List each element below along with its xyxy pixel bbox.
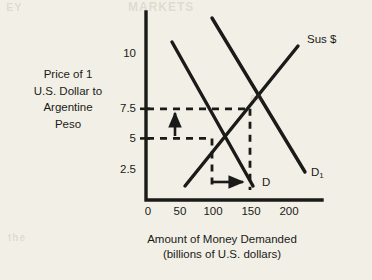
y-axis-caption-line-2: U.S. Dollar to — [8, 83, 128, 100]
y-axis-caption: Price of 1 U.S. Dollar to Argentine Peso — [8, 66, 128, 132]
x-tick-label-200: 200 — [274, 205, 304, 217]
dashed-guides — [147, 109, 250, 190]
curve-label-demand-shifted-subscript: 1 — [319, 171, 323, 180]
x-tick-label-100: 100 — [198, 205, 228, 217]
plot-axes — [146, 12, 322, 200]
x-axis-caption: Amount of Money Demanded (billions of U.… — [116, 232, 328, 262]
x-axis-caption-line-1: Amount of Money Demanded — [116, 232, 328, 247]
curve-label-supply: Sus $ — [307, 33, 336, 45]
x-tick-label-0: 0 — [138, 205, 158, 217]
x-tick-label-150: 150 — [236, 205, 266, 217]
y-axis-caption-line-1: Price of 1 — [8, 66, 128, 83]
y-tick-label-2point5: 2.5 — [92, 163, 136, 175]
y-tick-label-7point5: 7.5 — [92, 102, 136, 114]
curve-label-demand: D — [262, 176, 270, 188]
axis-lines — [146, 12, 322, 200]
y-tick-label-5: 5 — [92, 132, 136, 144]
curve-label-demand-shifted: D1 — [311, 166, 324, 180]
x-axis-caption-line-2: (billions of U.S. dollars) — [116, 247, 328, 262]
y-tick-label-10: 10 — [92, 47, 136, 59]
x-tick-label-50: 50 — [168, 205, 192, 217]
y-axis-caption-line-4: Peso — [8, 116, 128, 133]
